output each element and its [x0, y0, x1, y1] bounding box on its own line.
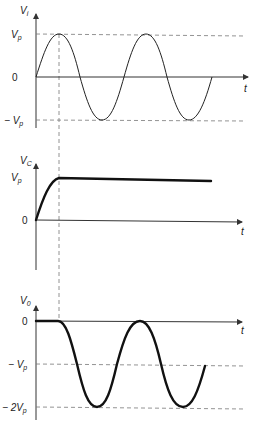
vc-axis-label: VC: [20, 155, 33, 167]
vc-waveform: [36, 178, 211, 220]
vo-neg-2vp-dashed-line: [36, 407, 246, 409]
vo-waveform: [36, 321, 205, 407]
panel-capacitor-voltage: VC Vp 0 t: [11, 155, 245, 270]
vo-tick-zero: 0: [22, 316, 28, 327]
vi-tick-vp: Vp: [11, 29, 22, 42]
vo-axis-label: V0: [20, 295, 31, 307]
vc-x-axis: [36, 220, 242, 222]
vi-tick-neg-vp: − Vp: [4, 115, 23, 128]
vi-neg-vp-dashed-line: [36, 120, 246, 121]
vc-x-axis-label: t: [241, 226, 245, 237]
vc-tick-zero: 0: [22, 215, 28, 226]
clamper-waveform-diagram: Vi Vp 0 − Vp t VC Vp 0 t V0 0 − Vp − 2Vp…: [0, 0, 262, 427]
panel-input-voltage: Vi Vp 0 − Vp t: [4, 5, 248, 128]
vo-tick-neg-2vp: − 2Vp: [2, 402, 27, 415]
vi-axis-label: Vi: [20, 5, 29, 17]
vo-x-axis-label: t: [241, 325, 245, 336]
vi-tick-zero: 0: [12, 72, 18, 83]
vo-neg-vp-dashed-line: [36, 364, 246, 366]
vi-x-axis-label: t: [244, 83, 248, 94]
panel-output-voltage: V0 0 − Vp − 2Vp t: [2, 295, 246, 420]
vo-tick-neg-vp: − Vp: [8, 359, 27, 372]
vc-tick-vp: Vp: [11, 172, 22, 185]
